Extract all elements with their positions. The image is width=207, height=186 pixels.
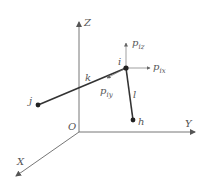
force-pix-sub: ix	[159, 67, 165, 75]
x-axis	[16, 132, 79, 176]
origin-label: O	[68, 122, 76, 132]
force-piz-sub: iz	[138, 43, 144, 51]
member-l	[126, 68, 133, 120]
force-pix-label: pix	[153, 62, 166, 75]
node-i	[123, 65, 128, 70]
y-axis-label: Y	[185, 119, 192, 129]
member-k	[38, 68, 126, 105]
member-k-label: k	[85, 73, 91, 83]
force-piy-arrow	[107, 68, 126, 78]
force-piy-sub: iy	[106, 91, 112, 99]
force-piy-label: piy	[100, 86, 113, 99]
node-j	[36, 103, 41, 108]
node-h	[131, 118, 136, 123]
z-axis-label: Z	[84, 18, 91, 28]
member-l-label: l	[133, 90, 136, 100]
node-h-label: h	[138, 117, 144, 127]
node-i-label: i	[118, 57, 121, 67]
force-piz-label: piz	[132, 38, 144, 51]
node-j-label: j	[29, 96, 32, 106]
x-axis-label: X	[17, 157, 24, 167]
